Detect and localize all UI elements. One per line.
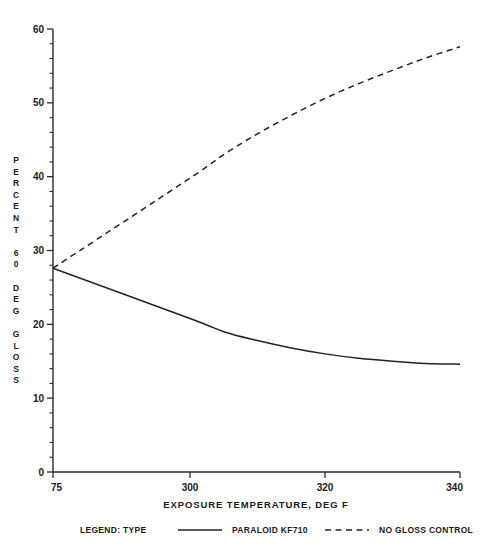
y-tick-label: 40 — [33, 171, 45, 182]
x-tick-label: 300 — [182, 482, 199, 493]
x-axis-major-ticks — [53, 472, 460, 478]
x-axis-title: EXPOSURE TEMPERATURE, DEG F — [163, 499, 349, 510]
y-axis-title-char: O — [13, 352, 20, 362]
series-line-no-gloss-control — [53, 47, 460, 269]
series-line-paraloid-kf710 — [53, 268, 460, 364]
legend-label-paraloid-kf710: PARALOID KF710 — [232, 525, 308, 535]
y-axis-title-char: 0 — [14, 259, 19, 269]
y-tick-label: 50 — [33, 97, 45, 108]
x-tick-label: 320 — [317, 482, 334, 493]
y-axis-title-char: N — [13, 213, 19, 223]
line-chart: 0102030405060 75300320340 PERCENT60DEGGL… — [0, 0, 488, 551]
y-axis-title-char: S — [13, 364, 19, 374]
x-tick-label: 75 — [51, 482, 63, 493]
chart-legend: LEGEND: TYPE PARALOID KF710 NO GLOSS CON… — [80, 525, 473, 535]
y-tick-label: 60 — [33, 24, 45, 35]
chart-container: 0102030405060 75300320340 PERCENT60DEGGL… — [0, 0, 488, 551]
y-axis-title-char: C — [13, 190, 19, 200]
y-axis-title-char: E — [13, 294, 19, 304]
legend-label-no-gloss-control: NO GLOSS CONTROL — [379, 525, 473, 535]
y-axis-title: PERCENT60DEGGLOSS — [13, 155, 20, 385]
x-axis-tick-labels: 75300320340 — [51, 482, 463, 493]
y-tick-label: 20 — [33, 319, 45, 330]
y-axis-title-char: L — [13, 341, 18, 351]
y-axis-title-char: R — [13, 178, 19, 188]
y-axis-tick-labels: 0102030405060 — [33, 24, 45, 478]
series-lines — [53, 47, 460, 364]
y-axis-title-char: D — [13, 283, 19, 293]
y-axis-title-char: S — [13, 375, 19, 385]
y-axis-title-char: E — [13, 201, 19, 211]
y-axis-title-char: E — [13, 167, 19, 177]
y-axis-title-char: G — [13, 329, 20, 339]
y-axis-title-char: 6 — [14, 248, 19, 258]
y-tick-label: 30 — [33, 245, 45, 256]
x-tick-label: 340 — [446, 482, 463, 493]
y-axis-title-char: P — [13, 155, 19, 165]
y-tick-label: 10 — [33, 393, 45, 404]
y-axis-title-char: G — [13, 306, 20, 316]
y-tick-label: 0 — [38, 467, 44, 478]
legend-title: LEGEND: TYPE — [80, 525, 146, 535]
y-axis-major-ticks — [47, 29, 53, 472]
y-axis-title-char: T — [13, 225, 19, 235]
